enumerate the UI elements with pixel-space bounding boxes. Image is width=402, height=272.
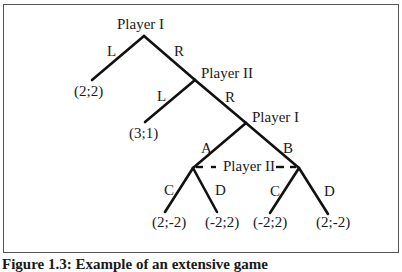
node-label-player2: Player II xyxy=(201,66,253,81)
edge-label-b-D: D xyxy=(324,184,335,199)
payoff-leaf-4: (-2;2) xyxy=(205,215,239,230)
edge-label-n2-L: L xyxy=(157,89,166,104)
edge-label-n2-R: R xyxy=(225,90,235,105)
figure-caption: Figure 1.3: Example of an extensive game xyxy=(2,257,268,272)
edge-label-a-D: D xyxy=(215,183,226,198)
payoff-leaf-6: (2;-2) xyxy=(316,215,350,230)
edge-a-D xyxy=(193,168,217,212)
edge-label-a-C: C xyxy=(164,183,174,198)
payoff-leaf-2: (3;1) xyxy=(129,126,158,141)
payoff-leaf-3: (2;-2) xyxy=(152,215,186,230)
payoff-leaf-5: (-2;2) xyxy=(253,215,287,230)
edge-label-b-C: C xyxy=(270,184,280,199)
edge-n2-R xyxy=(195,80,246,123)
edge-root-R xyxy=(144,36,195,80)
information-set-label: Player II xyxy=(223,159,275,174)
edge-label-root-L: L xyxy=(107,44,116,59)
edge-label-root-R: R xyxy=(174,44,184,59)
node-label-player1-second: Player I xyxy=(252,110,299,125)
edge-root-L xyxy=(92,36,144,80)
edge-label-A: A xyxy=(201,141,212,156)
edge-n2-L xyxy=(145,80,195,122)
edge-label-B: B xyxy=(283,141,293,156)
payoff-leaf-1: (2;2) xyxy=(74,84,103,99)
node-label-root: Player I xyxy=(117,17,164,32)
